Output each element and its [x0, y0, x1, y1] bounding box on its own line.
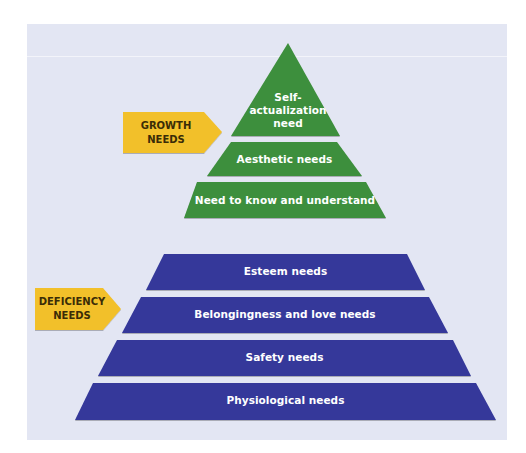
label-line: Self- — [238, 91, 338, 104]
growth-needs-tag-label: GROWTH NEEDS — [123, 119, 209, 147]
hierarchy-pyramid — [0, 0, 526, 453]
label-line: need — [238, 117, 338, 130]
belongingness-label: Belongingness and love needs — [122, 308, 448, 321]
self-actualization-label: Self- actualization need — [238, 91, 338, 130]
aesthetic-label: Aesthetic needs — [207, 153, 362, 166]
tag-line: DEFICIENCY — [35, 295, 109, 309]
label-line: actualization — [238, 104, 338, 117]
physiological-label: Physiological needs — [75, 394, 496, 407]
esteem-label: Esteem needs — [146, 265, 425, 278]
tag-line: NEEDS — [35, 309, 109, 323]
safety-label: Safety needs — [98, 351, 471, 364]
know-understand-label: Need to know and understand — [184, 194, 386, 207]
tag-line: NEEDS — [123, 133, 209, 147]
deficiency-needs-tag-label: DEFICIENCY NEEDS — [35, 295, 109, 323]
tag-line: GROWTH — [123, 119, 209, 133]
